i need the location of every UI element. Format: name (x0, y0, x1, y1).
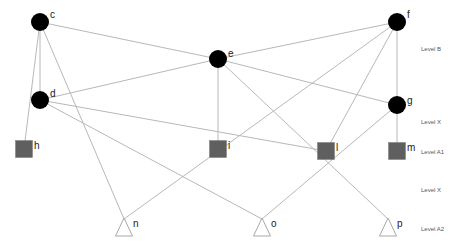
level-labels-group: Level BLevel XLevel A1Level XLevel A2 (421, 46, 445, 232)
node-label: f (407, 9, 410, 20)
edge-d-e (40, 59, 218, 100)
level-label: Level B (421, 46, 441, 52)
node-label: p (397, 218, 403, 229)
node-m[interactable]: m (389, 142, 416, 160)
triangle-node-icon (254, 218, 271, 236)
node-i[interactable]: i (210, 140, 231, 158)
edge-e-g (218, 59, 397, 105)
node-h[interactable]: h (16, 140, 40, 158)
node-c[interactable]: c (31, 9, 55, 31)
edge-d-l (40, 100, 326, 151)
triangle-node-icon (116, 218, 133, 236)
edge-e-f (218, 22, 397, 59)
triangle-node-icon (380, 218, 397, 236)
node-e[interactable]: e (209, 48, 234, 68)
node-label: i (228, 140, 230, 151)
node-label: l (336, 142, 338, 153)
square-node-icon (318, 143, 335, 160)
node-label: m (407, 142, 415, 153)
circle-node-icon (388, 13, 406, 31)
edge-c-e (40, 22, 218, 59)
square-node-icon (389, 143, 406, 160)
level-label: Level A2 (421, 226, 445, 232)
square-node-icon (210, 141, 227, 158)
edges-group (24, 22, 397, 219)
node-n[interactable]: n (116, 218, 139, 236)
node-label: g (407, 95, 413, 106)
circle-node-icon (31, 91, 49, 109)
node-p[interactable]: p (380, 218, 404, 236)
node-g[interactable]: g (388, 95, 413, 114)
level-label: Level A1 (421, 149, 445, 155)
node-label: n (133, 218, 139, 229)
edge-d-o (40, 100, 262, 219)
circle-node-icon (31, 13, 49, 31)
nodes-group: cdefghilmnop (16, 9, 416, 236)
node-label: c (50, 9, 55, 20)
edge-c-n (40, 22, 124, 219)
node-label: e (228, 48, 234, 59)
node-label: h (34, 140, 40, 151)
node-o[interactable]: o (254, 218, 278, 236)
node-label: o (271, 218, 277, 229)
edge-g-o (262, 105, 397, 219)
level-label: Level X (421, 187, 441, 193)
layered-graph-diagram: cdefghilmnop Level BLevel XLevel A1Level… (0, 0, 455, 249)
edge-f-l (326, 22, 397, 151)
circle-node-icon (209, 50, 227, 68)
circle-node-icon (388, 96, 406, 114)
edge-e-p (218, 59, 388, 219)
node-f[interactable]: f (388, 9, 410, 31)
level-label: Level X (421, 119, 441, 125)
node-label: d (50, 88, 56, 99)
edge-c-h (24, 22, 40, 149)
square-node-icon (16, 141, 33, 158)
